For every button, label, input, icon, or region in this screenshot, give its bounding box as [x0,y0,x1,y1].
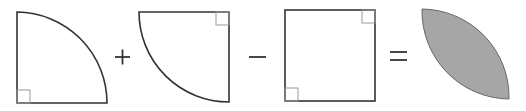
right-angle-marker [362,10,375,23]
right-angle-marker [216,12,229,25]
square [285,10,375,101]
right-angle-marker [285,88,298,101]
diagram-canvas [0,0,526,111]
plus-operator [115,50,130,65]
quarter-circle-bottom-left [17,12,107,103]
right-angle-marker [17,90,30,103]
lens-shaded [422,9,509,99]
equals-operator [390,52,407,60]
quarter-circle-top-right [139,12,229,102]
